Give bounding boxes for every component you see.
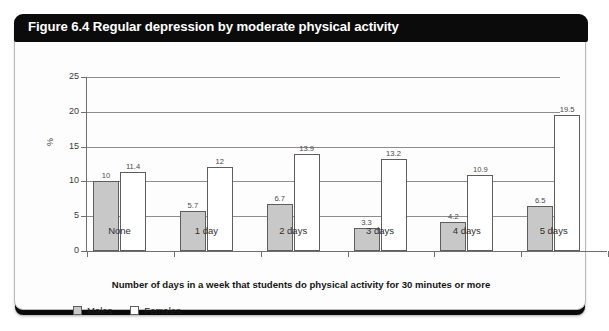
y-axis-line — [86, 77, 87, 251]
x-axis-tick — [87, 251, 88, 257]
bar-value-label: 19.5 — [560, 105, 575, 114]
x-axis-tick — [434, 251, 435, 257]
x-axis-tick — [174, 251, 175, 257]
x-axis-title: Number of days in a week that students d… — [15, 279, 587, 290]
bar-value-label: 12 — [216, 157, 224, 166]
bar-value-label: 10 — [102, 171, 110, 180]
figure-card: Figure 6.4 Regular depression by moderat… — [14, 14, 586, 310]
x-axis-category-label: 4 days — [453, 225, 481, 236]
y-axis-tick — [81, 216, 87, 217]
x-axis-tick — [521, 251, 522, 257]
bar-value-label: 11.4 — [126, 162, 140, 171]
legend-swatch-icon — [130, 306, 139, 315]
y-axis-title: % — [45, 138, 55, 146]
y-axis-tick — [81, 112, 87, 113]
legend-item-males[interactable]: Males — [73, 305, 112, 316]
y-axis-tick-label: 15 — [57, 141, 79, 151]
y-axis-tick-label: 5 — [57, 210, 79, 220]
y-axis-tick-label: 25 — [57, 71, 79, 81]
bar-females[interactable]: 11.4 — [120, 172, 146, 251]
plot-region: 05101520251011.45.7126.713.93.313.24.210… — [87, 77, 560, 251]
bar-value-label: 13.2 — [386, 149, 401, 158]
legend-item-females[interactable]: Females — [130, 305, 180, 316]
y-axis-tick-label: 20 — [57, 106, 79, 116]
x-axis-category-label: None — [108, 225, 131, 236]
legend-label: Males — [87, 305, 112, 316]
chart-legend: MalesFemales — [73, 305, 181, 316]
y-axis-tick — [81, 147, 87, 148]
y-axis-tick-label: 10 — [57, 175, 79, 185]
y-axis-tick — [81, 77, 87, 78]
y-axis-tick — [81, 181, 87, 182]
x-axis-line — [86, 251, 607, 252]
bar-females[interactable]: 13.2 — [381, 159, 407, 251]
legend-swatch-icon — [73, 306, 82, 315]
bar-value-label: 6.5 — [535, 196, 546, 205]
bar-females[interactable]: 10.9 — [467, 175, 493, 251]
bar-value-label: 13.9 — [299, 144, 314, 153]
figure-title: Figure 6.4 Regular depression by moderat… — [28, 19, 399, 34]
bar-value-label: 10.9 — [473, 165, 488, 174]
y-axis-tick-label: 0 — [57, 245, 79, 255]
bar-value-label: 6.7 — [274, 194, 285, 203]
x-axis-category-label: 1 day — [195, 225, 218, 236]
chart-area: 05101520251011.45.7126.713.93.313.24.210… — [15, 43, 587, 310]
x-axis-tick — [261, 251, 262, 257]
bar-value-label: 4.2 — [448, 212, 459, 221]
x-axis-category-label: 5 days — [540, 225, 568, 236]
x-axis-tick — [348, 251, 349, 257]
bar-value-label: 5.7 — [188, 201, 199, 210]
legend-label: Females — [144, 305, 180, 316]
x-axis-category-label: 2 days — [279, 225, 307, 236]
bar-females[interactable]: 12 — [207, 167, 233, 251]
bar-males[interactable]: 10 — [93, 181, 119, 251]
figure-header-bar: Figure 6.4 Regular depression by moderat… — [14, 14, 588, 42]
bar-females[interactable]: 13.9 — [294, 154, 320, 251]
x-axis-category-label: 3 days — [366, 225, 394, 236]
